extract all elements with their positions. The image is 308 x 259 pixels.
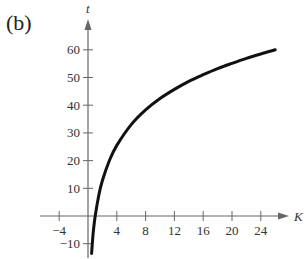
x-tick-label: 8 <box>142 223 149 238</box>
y-tick-label: 30 <box>67 125 80 140</box>
x-tick-label: 12 <box>168 223 181 238</box>
x-axis-arrow-icon <box>278 213 289 220</box>
y-axis-arrow-icon <box>85 19 92 30</box>
x-axis-label: K <box>293 209 304 224</box>
x-tick-label: 20 <box>226 223 239 238</box>
chart: (b) Kt −44812162024−10102030405060 <box>0 0 308 259</box>
x-tick-label: 4 <box>114 223 121 238</box>
y-axis-label: t <box>86 1 90 16</box>
y-tick-label: 40 <box>67 98 80 113</box>
x-tick-label: 16 <box>197 223 211 238</box>
panel-label: (b) <box>6 10 32 35</box>
y-tick-label: 60 <box>67 42 80 57</box>
y-tick-label: −10 <box>60 236 80 251</box>
y-tick-label: 10 <box>67 181 80 196</box>
ticks: −44812162024−10102030405060 <box>52 42 268 251</box>
y-tick-label: 20 <box>67 153 80 168</box>
y-tick-label: 50 <box>67 70 80 85</box>
x-tick-label: 24 <box>254 223 268 238</box>
